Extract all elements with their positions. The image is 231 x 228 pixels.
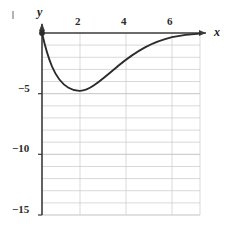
y-axis-tick-label-minus-5: −5 — [18, 83, 30, 94]
x-axis-tick-label-4: 4 — [121, 16, 127, 27]
graph-figure: 2 4 6 −5 −10 −15 x y — [0, 0, 231, 228]
grid-lines-vertical — [80, 33, 200, 215]
data-curve — [42, 33, 200, 91]
grid-lines-horizontal — [42, 45, 200, 215]
plot-canvas — [0, 0, 231, 228]
origin-point-marker — [39, 30, 45, 36]
x-axis-label: x — [214, 26, 220, 38]
x-axis-tick-label-2: 2 — [75, 16, 81, 27]
y-axis-tick-label-minus-10: −10 — [12, 143, 29, 154]
y-axis — [39, 23, 45, 215]
x-axis-tick-label-6: 6 — [167, 16, 173, 27]
y-axis-label: y — [37, 6, 42, 18]
y-axis-tick-label-minus-15: −15 — [12, 204, 29, 215]
